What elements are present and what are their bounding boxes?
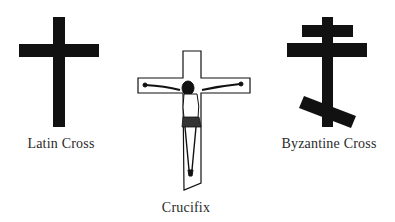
crucifix-label: Crucifix: [162, 200, 210, 216]
byzantine-cross-label: Byzantine Cross: [281, 136, 376, 152]
latin-cross-label: Latin Cross: [27, 136, 94, 152]
byzantine-cross-icon: [287, 17, 367, 128]
crucifix-icon: [138, 51, 250, 190]
latin-cross-icon: [19, 17, 99, 127]
crosses-diagram: [0, 0, 395, 222]
